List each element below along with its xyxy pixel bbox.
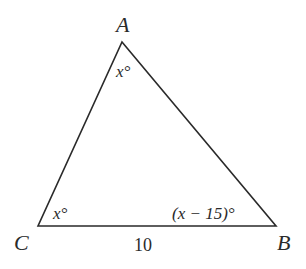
angle-label-b: (x − 15)° <box>172 204 235 223</box>
vertex-label-a: A <box>114 12 130 37</box>
side-label-cb: 10 <box>134 235 152 255</box>
angle-label-a: x° <box>115 62 131 81</box>
vertex-label-c: C <box>14 230 29 255</box>
triangle-abc <box>38 42 276 226</box>
angle-label-c: x° <box>52 204 68 223</box>
triangle-diagram: A C B x° x° (x − 15)° 10 <box>0 0 306 269</box>
vertex-label-b: B <box>277 230 290 255</box>
